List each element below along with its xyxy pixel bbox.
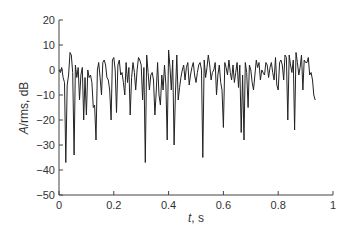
line-chart: 20100−10−20−30−40−50 00.20.40.60.81 A/rm… [0, 0, 350, 239]
y-tick-label: −30 [36, 139, 55, 151]
y-tick-label: −40 [36, 164, 55, 176]
x-axis-label-rest: , s [191, 211, 204, 225]
x-tick-label: 1 [330, 199, 336, 211]
y-tick-label: 0 [49, 64, 55, 76]
x-tick-label: 0.2 [106, 199, 121, 211]
y-tick-label: 10 [43, 39, 55, 51]
y-tick-label: −20 [36, 114, 55, 126]
y-axis-label-italic: A [17, 126, 31, 135]
x-tick-label: 0 [56, 199, 62, 211]
x-tick-label: 0.4 [161, 199, 176, 211]
x-axis-ticks: 00.20.40.60.81 [56, 191, 336, 211]
y-axis-label-rest: /rms, dB [17, 82, 31, 127]
x-tick-label: 0.6 [216, 199, 231, 211]
signal-series-line [59, 50, 315, 163]
x-tick-label: 0.8 [271, 199, 286, 211]
y-axis-label: A/rms, dB [17, 82, 31, 136]
y-tick-label: 20 [43, 14, 55, 26]
x-axis-label: t, s [188, 211, 204, 225]
y-tick-label: −10 [36, 89, 55, 101]
y-tick-label: −50 [36, 189, 55, 201]
